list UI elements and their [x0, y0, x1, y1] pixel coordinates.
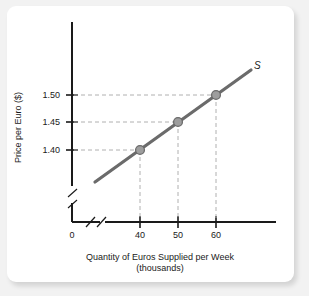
data-point-marker — [212, 91, 221, 100]
x-tick-label-50: 50 — [166, 230, 190, 240]
supply-curve-line — [95, 70, 251, 182]
y-axis-title: Price per Euro ($) — [13, 78, 24, 178]
x-axis-title-main: Quantity of Euros Supplied per Week — [86, 252, 234, 262]
data-point-marker — [174, 118, 183, 127]
y-tick-label-150: 1.50 — [30, 90, 60, 100]
y-tick-label-145: 1.45 — [30, 117, 60, 127]
data-point-marker — [136, 146, 145, 155]
x-axis-title: Quantity of Euros Supplied per Week (tho… — [60, 252, 260, 274]
screenshot-root: Price per Euro ($) 1.50 1.45 1.40 0 40 5… — [0, 0, 309, 296]
origin-label: 0 — [60, 230, 84, 240]
y-axis-break-mark-1 — [68, 189, 77, 197]
x-axis-title-sub: (thousands) — [136, 263, 184, 273]
y-tick-label-140: 1.40 — [30, 145, 60, 155]
x-tick-label-40: 40 — [128, 230, 152, 240]
supply-curve-label: S — [254, 60, 261, 71]
supply-curve-chart: Price per Euro ($) 1.50 1.45 1.40 0 40 5… — [0, 0, 309, 296]
x-tick-label-60: 60 — [204, 230, 228, 240]
